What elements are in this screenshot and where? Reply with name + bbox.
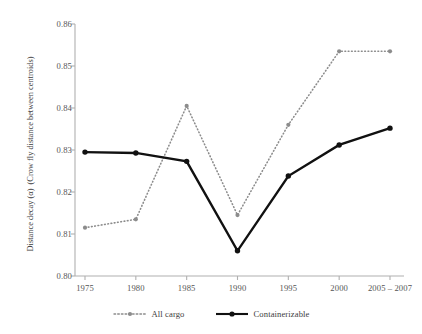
chart-legend: All cargo Containerizable: [0, 304, 422, 324]
data-point-all-cargo-1980: [134, 217, 138, 221]
y-axis-tick-label: 0.81: [42, 229, 72, 239]
x-axis-tick-label: 1980: [127, 283, 145, 293]
y-axis-title-line-2: (Crow fly distance between centroids): [26, 57, 35, 185]
x-axis-tick-label: 1985: [178, 283, 196, 293]
distance-decay-line-chart: Distance decay (α) (Crow fly distance be…: [0, 0, 422, 334]
y-axis-title-line-1: Distance decay (α): [26, 188, 35, 251]
y-axis-tick-label: 0.80: [42, 271, 72, 281]
legend-swatch-solid-icon: [215, 309, 249, 319]
legend-item-containerizable: Containerizable: [215, 309, 310, 319]
x-axis-tick-label: 1975: [76, 283, 94, 293]
x-axis-tick-label: 1990: [229, 283, 247, 293]
legend-label-all-cargo: All cargo: [152, 309, 185, 319]
legend-swatch-dotted-icon: [113, 309, 147, 319]
y-axis-tick-label: 0.82: [42, 187, 72, 197]
data-point-containerizable-1990: [235, 248, 240, 253]
data-point-all-cargo-1975: [83, 226, 87, 230]
x-axis-tick-label: 1995: [280, 283, 298, 293]
x-axis-tick-labels: 1975198019851990199520002005 – 2007: [0, 283, 422, 297]
y-axis-tick-label: 0.84: [42, 103, 72, 113]
data-point-all-cargo-1985: [185, 104, 189, 108]
legend-label-containerizable: Containerizable: [254, 309, 310, 319]
x-axis-tick-label: 2000: [330, 283, 348, 293]
data-point-containerizable-1995: [286, 173, 291, 178]
series-line-all-cargo: [85, 51, 390, 227]
data-point-containerizable-20052007: [387, 125, 392, 130]
data-point-containerizable-2000: [336, 142, 341, 147]
y-axis-tick-label: 0.86: [42, 19, 72, 29]
data-point-containerizable-1980: [133, 150, 138, 155]
data-point-containerizable-1985: [184, 159, 189, 164]
data-point-all-cargo-1995: [286, 123, 290, 127]
legend-item-all-cargo: All cargo: [113, 309, 185, 319]
y-axis-tick-label: 0.83: [42, 145, 72, 155]
data-point-all-cargo-20052007: [388, 49, 392, 53]
y-axis-tick-label: 0.85: [42, 61, 72, 71]
data-point-all-cargo-1990: [235, 213, 239, 217]
series-line-containerizable: [85, 128, 390, 251]
data-point-containerizable-1975: [82, 149, 87, 154]
x-axis-tick-label: 2005 – 2007: [368, 283, 412, 293]
data-point-all-cargo-2000: [337, 49, 341, 53]
